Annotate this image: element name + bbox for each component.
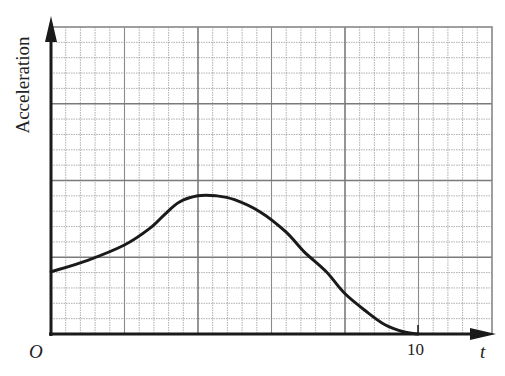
origin-label: O — [29, 341, 43, 363]
acceleration-curve — [51, 195, 418, 334]
y-axis-arrow-icon — [45, 16, 57, 42]
y-axis-label: Acceleration — [10, 20, 36, 150]
acceleration-time-graph — [0, 0, 505, 376]
x-axis-label: t — [480, 341, 485, 363]
y-axis-label-text: Acceleration — [12, 36, 34, 133]
x-tick-label-10: 10 — [407, 340, 424, 360]
